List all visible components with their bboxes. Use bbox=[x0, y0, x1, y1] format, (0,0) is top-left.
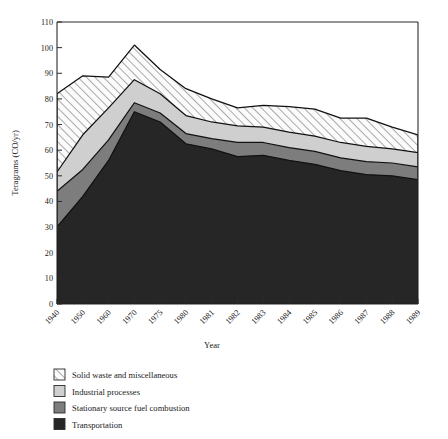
y-tick-label: 60 bbox=[45, 146, 53, 155]
x-tick-label: 1987 bbox=[353, 308, 371, 326]
legend-swatch bbox=[54, 419, 65, 430]
x-tick-label: 1986 bbox=[327, 308, 345, 326]
legend-label: Transportation bbox=[72, 420, 123, 430]
legend-swatch bbox=[54, 369, 65, 380]
legend-label: Solid waste and miscellaneous bbox=[72, 370, 178, 380]
x-tick-label: 1984 bbox=[275, 307, 294, 326]
y-tick-label: 20 bbox=[45, 249, 53, 258]
chart-areas bbox=[57, 45, 418, 304]
y-tick-label: 100 bbox=[41, 44, 53, 53]
x-tick-label: 1981 bbox=[198, 308, 216, 326]
y-tick-label: 10 bbox=[45, 274, 53, 283]
legend-swatch bbox=[54, 386, 65, 397]
x-tick-label: 1960 bbox=[95, 308, 113, 326]
y-tick-label: 30 bbox=[45, 223, 53, 232]
x-tick-label: 1970 bbox=[121, 308, 139, 326]
chart-legend: Solid waste and miscellaneousIndustrial … bbox=[54, 369, 190, 430]
x-tick-label: 1940 bbox=[43, 308, 61, 326]
y-tick-label: 50 bbox=[45, 172, 53, 181]
x-tick-label: 1985 bbox=[301, 308, 319, 326]
y-tick-label: 90 bbox=[45, 69, 53, 78]
x-tick-label: 1950 bbox=[69, 308, 87, 326]
legend-label: Industrial processes bbox=[72, 387, 141, 397]
chart-figure: 0102030405060708090100110 19401950196019… bbox=[0, 0, 448, 439]
x-tick-label: 1988 bbox=[378, 308, 396, 326]
y-tick-label: 70 bbox=[45, 121, 53, 130]
x-tick-label: 1983 bbox=[249, 308, 267, 326]
x-tick-label: 1975 bbox=[146, 308, 164, 326]
y-tick-label: 110 bbox=[41, 18, 53, 27]
legend-swatch bbox=[54, 402, 65, 413]
legend-label: Stationary source fuel combustion bbox=[72, 403, 190, 413]
x-tick-label: 1982 bbox=[224, 308, 242, 326]
x-tick-label: 1980 bbox=[172, 308, 190, 326]
y-tick-label: 40 bbox=[45, 197, 53, 206]
x-axis-title: Year bbox=[204, 340, 220, 350]
y-tick-label: 0 bbox=[49, 300, 53, 309]
y-axis-title: Teragrams (CO/yr) bbox=[10, 130, 20, 196]
x-tick-label: 1989 bbox=[404, 308, 422, 326]
y-tick-label: 80 bbox=[45, 95, 53, 104]
stacked-area-chart: 0102030405060708090100110 19401950196019… bbox=[0, 0, 448, 439]
